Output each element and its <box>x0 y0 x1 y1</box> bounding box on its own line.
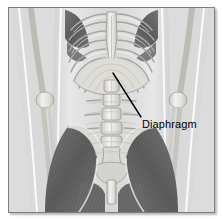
sternum <box>106 12 117 60</box>
right-elbow-joint <box>169 92 187 108</box>
anatomy-drawing <box>9 8 214 212</box>
left-elbow-joint <box>36 92 54 108</box>
illustration-frame: Diaphragm <box>8 7 215 213</box>
illustration-plate <box>9 8 214 212</box>
diaphragm-label: Diaphragm <box>142 118 197 130</box>
pubic-symphysis <box>107 180 116 204</box>
anatomical-figure: Diaphragm <box>0 0 223 219</box>
